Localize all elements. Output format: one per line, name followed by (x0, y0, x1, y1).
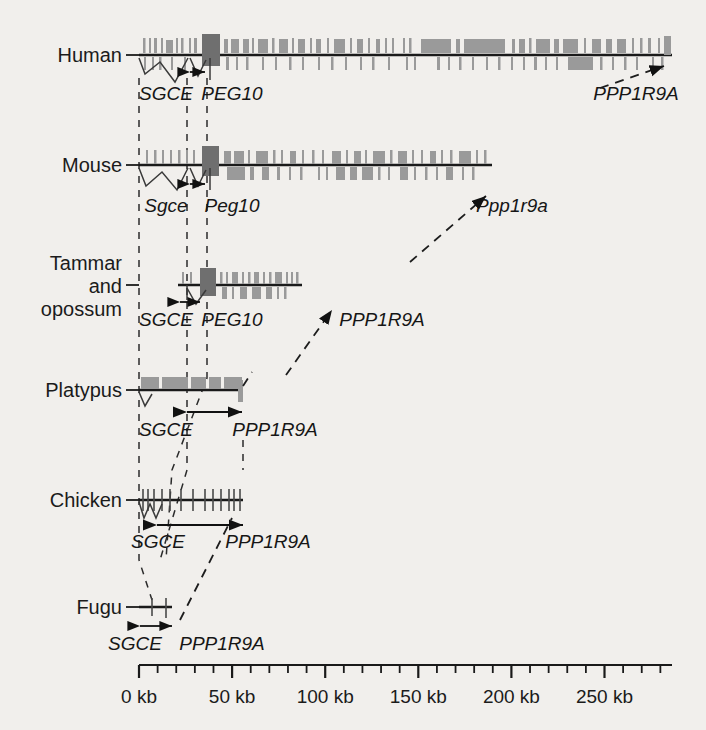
gene-label-chicken-ppp1r9a: PPP1R9A (225, 531, 311, 552)
axis-label-150: 150 kb (390, 686, 447, 707)
tammar-ppp1r9a-connector (286, 310, 332, 375)
human-repeats (143, 34, 671, 70)
species-row-fugu: Fugu SGCE PPP1R9A (76, 596, 264, 654)
figure-canvas: Human (0, 0, 706, 730)
species-label-platypus: Platypus (45, 379, 122, 401)
species-row-mouse: Mouse (62, 146, 548, 262)
axis-label-0: 0 kb (121, 686, 157, 707)
mouse-sgce-intron (139, 168, 188, 190)
mouse-repeats (146, 146, 487, 180)
mouse-ppp1r9a-connector (410, 196, 486, 262)
gene-label-tammar-sgce: SGCE (139, 309, 193, 330)
platypus-sgce-intron (139, 392, 152, 406)
alignment-guides (139, 78, 207, 600)
species-label-tammar-line3: opossum (41, 298, 122, 320)
axis-label-100: 100 kb (297, 686, 354, 707)
gene-label-tammar-peg10: PEG10 (201, 309, 263, 330)
gene-label-fugu-sgce: SGCE (108, 633, 162, 654)
species-label-tammar-line2: and (89, 275, 122, 297)
gene-label-platypus-ppp1r9a: PPP1R9A (232, 419, 318, 440)
axis-label-250: 250 kb (576, 686, 633, 707)
species-label-mouse: Mouse (62, 154, 122, 176)
axis-label-200: 200 kb (483, 686, 540, 707)
scale-axis: 0 kb50 kb100 kb150 kb200 kb250 kb (121, 665, 672, 707)
species-label-fugu: Fugu (76, 596, 122, 618)
tammar-repeats (182, 268, 299, 299)
species-row-tammar-opossum: Tammar and opossum (41, 252, 425, 375)
gene-label-chicken-sgce: SGCE (131, 531, 185, 552)
axis-tick-group (139, 665, 660, 678)
gene-label-human-peg10: PEG10 (201, 83, 263, 104)
axis-label-group: 0 kb50 kb100 kb150 kb200 kb250 kb (121, 686, 633, 707)
gene-label-mouse-peg10: Peg10 (205, 195, 260, 216)
human-sgce-intron (139, 58, 188, 82)
platypus-ppp1r9a-connector (243, 372, 252, 386)
gene-label-tammar-ppp1r9a: PPP1R9A (339, 309, 425, 330)
gene-label-mouse-sgce: Sgce (144, 195, 187, 216)
chicken-fugu-connector (180, 518, 232, 620)
guide-sgce-start (139, 78, 152, 600)
gene-label-human-sgce: SGCE (139, 83, 193, 104)
species-label-human: Human (58, 44, 122, 66)
species-row-platypus: Platypus SGCE PPP1R9A (45, 372, 317, 470)
gene-label-fugu-ppp1r9a: PPP1R9A (179, 633, 265, 654)
species-row-human: Human (58, 34, 679, 104)
genome-comparison-figure: Human (0, 0, 706, 730)
gene-label-mouse-ppp1r9a: Ppp1r9a (476, 195, 548, 216)
species-label-tammar-line1: Tammar (50, 252, 123, 274)
species-label-chicken: Chicken (50, 489, 122, 511)
gene-label-platypus-sgce: SGCE (139, 419, 193, 440)
axis-label-50: 50 kb (209, 686, 255, 707)
